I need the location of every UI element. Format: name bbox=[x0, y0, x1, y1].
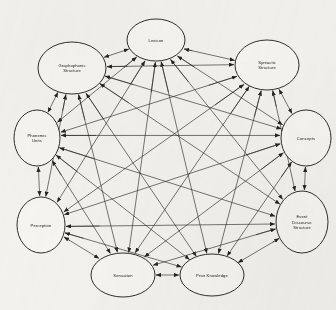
diagram-page: LexiconGraphophonicStructureSyntacticStr… bbox=[0, 0, 336, 310]
edge-perception-event_discourse bbox=[66, 224, 275, 226]
edge-arrow-reverse bbox=[65, 233, 84, 238]
edge-arrow-reverse bbox=[254, 91, 261, 117]
edge-arrow-reverse bbox=[64, 237, 70, 240]
node-perception[interactable]: Perception bbox=[17, 197, 65, 253]
edge-arrow-reverse bbox=[231, 86, 249, 113]
edge-arrow-reverse bbox=[209, 76, 237, 85]
edge-arrow-reverse bbox=[131, 61, 145, 84]
edge-arrow-reverse bbox=[56, 155, 77, 172]
node-label-lexicon: Lexicon bbox=[149, 38, 165, 43]
edge-arrow-reverse bbox=[279, 89, 281, 93]
edge-arrow-reverse bbox=[273, 238, 280, 242]
edge-arrow-reverse bbox=[246, 144, 281, 155]
node-prior_knowledge[interactable]: Prior Knowledge bbox=[180, 254, 244, 296]
node-label-syntactic: SyntacticStructure bbox=[258, 60, 276, 70]
edge-arrow-reverse bbox=[105, 76, 133, 84]
edge-arrow-reverse bbox=[184, 49, 192, 51]
node-label-prior_knowledge: Prior Knowledge bbox=[196, 273, 228, 278]
edge-arrow-reverse bbox=[215, 84, 244, 104]
edge-syntactic-prior_knowledge bbox=[219, 91, 262, 254]
edge-syntactic-concepts bbox=[279, 89, 292, 113]
edge-arrow-reverse bbox=[125, 49, 129, 50]
node-sensation[interactable]: Sensation bbox=[91, 253, 155, 297]
edge-arrow-reverse bbox=[273, 91, 277, 107]
edge-arrow-reverse bbox=[52, 161, 61, 176]
edge-phonemic-prior_knowledge bbox=[56, 155, 189, 259]
edge-arrow-reverse bbox=[171, 59, 189, 81]
edge-graphophonic-phonemic bbox=[48, 92, 58, 112]
nodes-layer: LexiconGraphophonicStructureSyntacticStr… bbox=[14, 19, 331, 297]
node-lexicon[interactable]: Lexicon bbox=[127, 19, 185, 61]
node-graph-diagram: LexiconGraphophonicStructureSyntacticStr… bbox=[0, 0, 336, 310]
node-label-sensation: Sensation bbox=[113, 273, 133, 278]
edge-lexicon-sensation bbox=[129, 62, 156, 252]
edge-arrow-reverse bbox=[261, 153, 283, 170]
node-syntactic[interactable]: SyntacticStructure bbox=[235, 40, 299, 90]
edge-lexicon-prior_knowledge bbox=[161, 62, 207, 254]
edge-syntactic-sensation bbox=[135, 86, 249, 252]
edge-arrow-reverse bbox=[161, 62, 168, 93]
edge-arrow-reverse bbox=[151, 62, 155, 92]
edge-arrow-reverse bbox=[79, 95, 85, 120]
edge-arrow-reverse bbox=[56, 92, 58, 95]
edge-perception-sensation bbox=[64, 237, 99, 258]
node-event_discourse[interactable]: EventDiscourseStructure bbox=[276, 191, 328, 253]
edge-phonemic-perception bbox=[38, 167, 39, 196]
edge-event_discourse-prior_knowledge bbox=[238, 238, 279, 262]
edge-arrow-reverse bbox=[100, 84, 129, 103]
edge-arrow-reverse bbox=[59, 148, 94, 159]
edge-lexicon-syntactic bbox=[184, 49, 235, 60]
edge-arrow-reverse bbox=[86, 93, 104, 119]
node-label-concepts: Concepts bbox=[297, 136, 315, 141]
node-concepts[interactable]: Concepts bbox=[281, 110, 331, 166]
node-phonemic[interactable]: PhonemicUnits bbox=[14, 110, 60, 166]
edge-concepts-event_discourse bbox=[304, 167, 305, 190]
edge-graphophonic-sensation bbox=[79, 95, 118, 253]
edge-graphophonic-prior_knowledge bbox=[86, 93, 196, 256]
node-graphophonic[interactable]: GraphophonicStructure bbox=[38, 42, 106, 94]
node-label-perception: Perception bbox=[31, 223, 52, 228]
edge-arrow-reverse bbox=[63, 95, 66, 111]
edge-arrow-reverse bbox=[256, 229, 276, 235]
edge-lexicon-graphophonic bbox=[104, 49, 129, 57]
